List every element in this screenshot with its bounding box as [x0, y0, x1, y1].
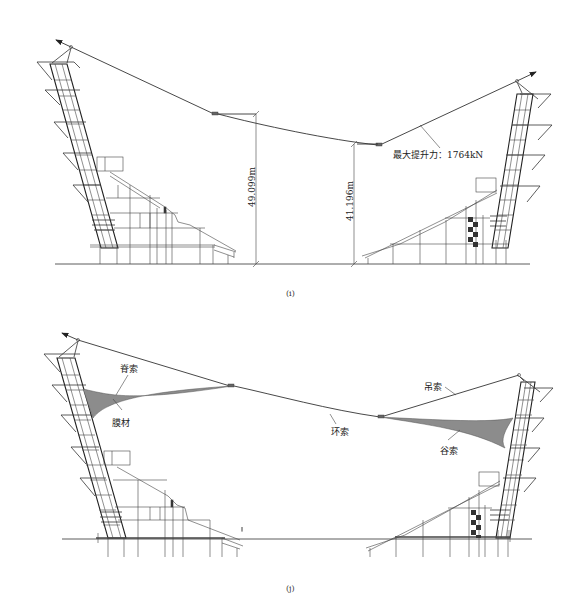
label-valley-cable: 谷索	[440, 444, 458, 457]
right-grandstand-i	[362, 178, 508, 264]
cables-i	[56, 40, 536, 148]
caption-j: (j)	[286, 584, 295, 593]
right-mast-i	[490, 80, 552, 249]
checker-pattern-i	[468, 217, 478, 247]
caption-i: (i)	[286, 289, 295, 298]
lift-force-annotation: 最大提升力：1764kN	[393, 148, 483, 161]
right-mast-j	[490, 374, 553, 539]
dimension-lines-i	[253, 111, 357, 267]
checker-pattern-j	[471, 510, 481, 538]
label-ridge-cable: 脊索	[120, 362, 138, 375]
suspension-cable-right	[384, 375, 519, 416]
leader-line-lift-force	[420, 125, 440, 148]
ring-cable	[234, 386, 380, 417]
left-mast-j	[44, 339, 126, 539]
diagram-canvas	[0, 0, 588, 597]
dimension-label-right: 41.196m	[345, 181, 355, 221]
label-membrane: 膜材	[112, 416, 130, 429]
left-grandstand-j	[96, 451, 243, 557]
label-suspension-cable: 吊索	[424, 380, 442, 393]
suspension-cable-left	[78, 340, 230, 386]
label-ring-cable: 环索	[331, 425, 349, 438]
right-grandstand-j	[366, 472, 510, 557]
membrane-left	[83, 386, 232, 418]
dimension-label-left: 49.099m	[247, 167, 257, 207]
left-mast-i	[37, 46, 118, 249]
